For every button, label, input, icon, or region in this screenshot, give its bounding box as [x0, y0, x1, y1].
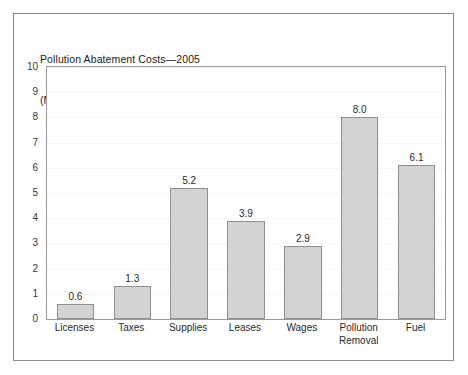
y-tick-label: 9 [32, 86, 38, 97]
x-tick-label: Fuel [387, 322, 444, 335]
bar[interactable] [227, 221, 265, 319]
bar[interactable] [114, 286, 152, 319]
bar-value-label: 2.9 [274, 233, 332, 244]
bar-group: 8.0 [341, 67, 379, 319]
y-tick-label: 3 [32, 237, 38, 248]
x-axis: LicensesTaxesSuppliesLeasesWagesPollutio… [46, 322, 446, 362]
chart-figure: Pollution Abatement Costs—2005 (Millions… [13, 13, 454, 361]
bar[interactable] [398, 165, 436, 319]
bar[interactable] [57, 304, 95, 319]
bar-value-label: 3.9 [217, 208, 275, 219]
bar[interactable] [170, 188, 208, 319]
y-tick-label: 5 [32, 187, 38, 198]
x-tick-label: Taxes [103, 322, 160, 335]
y-tick-label: 7 [32, 136, 38, 147]
x-tick-label: Leases [217, 322, 274, 335]
bar-value-label: 0.6 [47, 291, 105, 302]
y-tick-label: 0 [32, 313, 38, 324]
bar-value-label: 6.1 [388, 152, 446, 163]
bars-layer: 0.61.35.23.92.98.06.1 [47, 67, 445, 319]
x-tick-label: Pollution Removal [330, 322, 387, 347]
y-tick-label: 8 [32, 111, 38, 122]
bar-group: 2.9 [284, 67, 322, 319]
y-tick-label: 1 [32, 287, 38, 298]
bar-value-label: 5.2 [160, 175, 218, 186]
bar-value-label: 1.3 [104, 273, 162, 284]
bar-group: 0.6 [57, 67, 95, 319]
x-tick-label: Wages [273, 322, 330, 335]
y-tick-label: 2 [32, 262, 38, 273]
bar-group: 6.1 [398, 67, 436, 319]
plot-area: 0.61.35.23.92.98.06.1 [46, 66, 446, 320]
chart-title-line-1: Pollution Abatement Costs—2005 [40, 53, 200, 67]
y-tick-label: 6 [32, 161, 38, 172]
bar[interactable] [284, 246, 322, 319]
bar-group: 1.3 [114, 67, 152, 319]
bar-group: 5.2 [170, 67, 208, 319]
bar[interactable] [341, 117, 379, 319]
bar-group: 3.9 [227, 67, 265, 319]
y-tick-label: 10 [27, 61, 38, 72]
x-tick-label: Supplies [160, 322, 217, 335]
x-tick-label: Licenses [46, 322, 103, 335]
bar-value-label: 8.0 [331, 104, 389, 115]
y-axis: 012345678910 [14, 66, 44, 320]
y-tick-label: 4 [32, 212, 38, 223]
